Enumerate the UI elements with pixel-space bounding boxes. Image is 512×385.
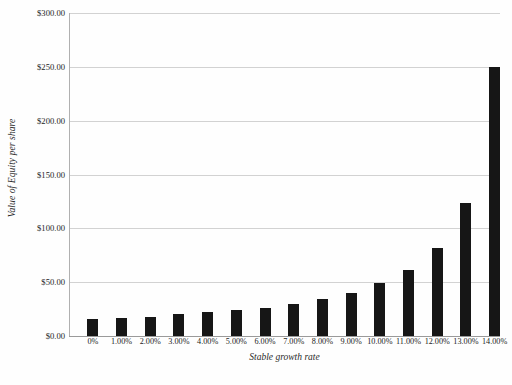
- bar: [145, 317, 156, 336]
- bar: [460, 203, 471, 337]
- y-tick-label: $100.00: [37, 223, 65, 233]
- x-tick-label: 0%: [87, 337, 98, 346]
- bar: [173, 314, 184, 336]
- y-tick-label: $250.00: [37, 62, 65, 72]
- bar: [432, 248, 443, 336]
- bar: [116, 318, 127, 336]
- x-tick-label: 3.00%: [168, 337, 189, 346]
- bar: [403, 270, 414, 336]
- x-tick-label: 7.00%: [283, 337, 304, 346]
- x-tick-label: 2.00%: [140, 337, 161, 346]
- x-tick-label: 14.00%: [482, 337, 507, 346]
- x-tick-label: 4.00%: [197, 337, 218, 346]
- x-axis-title: Stable growth rate: [69, 352, 500, 362]
- bars: [69, 13, 500, 336]
- x-tick-label: 8.00%: [312, 337, 333, 346]
- bar: [202, 312, 213, 336]
- bar: [260, 308, 271, 336]
- x-tick-label: 9.00%: [341, 337, 362, 346]
- y-tick-label: $150.00: [37, 170, 65, 180]
- y-axis-title-label: Value of Equity per share: [7, 119, 17, 218]
- y-tick-label: $50.00: [41, 277, 65, 287]
- x-tick-label: 5.00%: [226, 337, 247, 346]
- bar: [317, 299, 328, 336]
- y-axis-title: Value of Equity per share: [0, 0, 24, 336]
- bar: [288, 304, 299, 336]
- x-tick-label: 11.00%: [396, 337, 421, 346]
- x-tick-label: 13.00%: [453, 337, 478, 346]
- x-tick-label: 1.00%: [111, 337, 132, 346]
- plot-area: [69, 13, 500, 336]
- y-axis-tick-labels: $0.00$50.00$100.00$150.00$200.00$250.00$…: [24, 0, 68, 385]
- x-axis-tick-labels: 0%1.00%2.00%3.00%4.00%5.00%6.00%7.00%8.0…: [69, 337, 500, 351]
- x-axis-title-label: Stable growth rate: [249, 352, 319, 362]
- x-tick-label: 10.00%: [367, 337, 392, 346]
- y-tick-label: $200.00: [37, 116, 65, 126]
- bar: [346, 293, 357, 336]
- bar: [374, 283, 385, 336]
- bar: [489, 67, 500, 336]
- bar: [231, 310, 242, 336]
- x-tick-label: 6.00%: [254, 337, 275, 346]
- x-tick-label: 12.00%: [425, 337, 450, 346]
- y-tick-label: $0.00: [46, 331, 65, 341]
- bar: [87, 319, 98, 336]
- y-tick-label: $300.00: [37, 8, 65, 18]
- bar-chart: Value of Equity per share $0.00$50.00$10…: [0, 0, 512, 385]
